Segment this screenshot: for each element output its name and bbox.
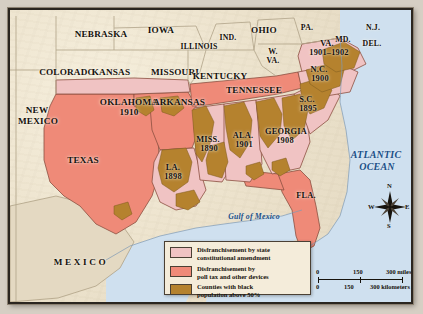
map-container: COLORADO NEBRASKA IOWA KANSAS MISSOURI I…	[0, 0, 423, 314]
scale-miles-300: 300 miles	[386, 268, 411, 275]
legend-swatch-constitutional-amendment	[170, 247, 192, 258]
state-oklahoma	[56, 78, 190, 94]
legend-swatch-black-majority	[170, 284, 192, 295]
compass-south-label: S	[387, 222, 391, 229]
scale-km-150: 150	[344, 283, 354, 290]
legend-line-1: Counties with black	[197, 283, 260, 291]
scale-km-300: 300 kilometers	[370, 283, 410, 290]
scale-miles-150: 150	[353, 268, 363, 275]
legend-item-poll-tax: Disfranchisement by poll tax and other d…	[170, 265, 306, 281]
legend-item-black-majority: Counties with black population above 50%	[170, 283, 306, 299]
legend-line-1: Disfranchisement by state	[197, 246, 270, 254]
legend-label-constitutional-amendment: Disfranchisement by state constitutional…	[197, 246, 270, 262]
legend-line-2: poll tax and other devices	[197, 273, 269, 281]
map-frame: COLORADO NEBRASKA IOWA KANSAS MISSOURI I…	[8, 8, 413, 304]
legend-item-constitutional-amendment: Disfranchisement by state constitutional…	[170, 246, 306, 262]
scale-miles-0: 0	[316, 268, 319, 275]
legend-line-2: population above 50%	[197, 291, 260, 299]
legend-line-2: constitutional amendment	[197, 254, 270, 262]
legend-line-1: Disfranchisement by	[197, 265, 269, 273]
scale-kilometers-labels: 0 150 300 kilometers	[316, 283, 412, 292]
scale-km-0: 0	[316, 283, 319, 290]
scale-miles-labels: 0 150 300 miles	[316, 268, 412, 277]
compass-east-label: E	[405, 203, 409, 210]
legend-label-poll-tax: Disfranchisement by poll tax and other d…	[197, 265, 269, 281]
scale-bar: 0 150 300 miles 0 150 300 kilometers	[316, 268, 412, 292]
compass-rose: N E S W	[367, 182, 413, 230]
legend-label-black-majority: Counties with black population above 50%	[197, 283, 260, 299]
compass-north-label: N	[387, 182, 392, 189]
legend-swatch-poll-tax	[170, 266, 192, 277]
compass-west-label: W	[368, 203, 375, 210]
map-legend: Disfranchisement by state constitutional…	[164, 241, 311, 295]
